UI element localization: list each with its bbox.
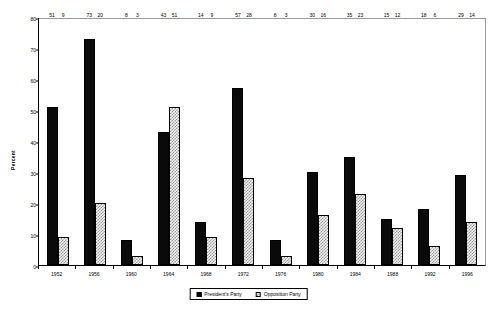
- bar-presidents-party[interactable]: 14: [195, 222, 206, 265]
- x-axis-tick-label: 1984: [337, 271, 374, 277]
- x-axis-tick-mark: [75, 266, 76, 269]
- y-axis-tick-label: 40: [6, 140, 39, 146]
- bar-presidents-party[interactable]: 29: [455, 175, 466, 265]
- x-axis-group: 1968: [187, 266, 224, 282]
- bar-group: 7320: [76, 19, 113, 265]
- bar-group: 3016: [299, 19, 336, 265]
- x-axis: 1952195619601964196819721976198019841988…: [38, 266, 486, 282]
- bar-wrapper: 29: [455, 19, 466, 265]
- bar-opposition-party[interactable]: 14: [466, 222, 477, 265]
- bar-opposition-party[interactable]: 23: [355, 194, 366, 265]
- bar-wrapper: 73: [84, 19, 95, 265]
- x-axis-tick-label: 1988: [374, 271, 411, 277]
- bar-value-label: 51: [172, 12, 178, 18]
- bar-opposition-party[interactable]: 3: [281, 256, 292, 265]
- bar-presidents-party[interactable]: 15: [381, 219, 392, 266]
- bar-wrapper: 51: [47, 19, 58, 265]
- x-axis-group: 1952: [38, 266, 75, 282]
- bar-wrapper: 3: [281, 19, 292, 265]
- bar-value-label: 3: [136, 12, 139, 18]
- bar-group: 519: [39, 19, 76, 265]
- bar-presidents-party[interactable]: 51: [47, 107, 58, 265]
- bar-wrapper: 14: [195, 19, 206, 265]
- bar-value-label: 14: [198, 12, 204, 18]
- bar-group: 5728: [225, 19, 262, 265]
- x-axis-group: 1980: [299, 266, 336, 282]
- x-axis-tick-mark: [262, 266, 263, 269]
- bar-opposition-party[interactable]: 28: [243, 178, 254, 265]
- x-axis-group: 1992: [411, 266, 448, 282]
- bar-opposition-party[interactable]: 16: [318, 215, 329, 265]
- bar-opposition-party[interactable]: 20: [95, 203, 106, 265]
- bar-wrapper: 12: [392, 19, 403, 265]
- bar-presidents-party[interactable]: 18: [418, 209, 429, 265]
- x-axis-tick-mark: [337, 266, 338, 269]
- x-axis-tick-mark: [187, 266, 188, 269]
- bar-wrapper: 28: [243, 19, 254, 265]
- bar-value-label: 8: [125, 12, 128, 18]
- bar-chart: Percent 01020304050607080 51973208343511…: [0, 0, 497, 318]
- bar-opposition-party[interactable]: 9: [206, 237, 217, 265]
- x-axis-group: 1984: [337, 266, 374, 282]
- y-axis-tick-label: 0: [6, 264, 39, 270]
- bar-presidents-party[interactable]: 8: [270, 240, 281, 265]
- plot-area: 01020304050607080 5197320834351149572883…: [38, 18, 486, 266]
- bar-value-label: 6: [433, 12, 436, 18]
- x-axis-group: 1972: [225, 266, 262, 282]
- bar-wrapper: 16: [318, 19, 329, 265]
- bar-presidents-party[interactable]: 57: [232, 88, 243, 265]
- bar-opposition-party[interactable]: 6: [429, 246, 440, 265]
- x-axis-tick-mark: [411, 266, 412, 269]
- bar-value-label: 15: [384, 12, 390, 18]
- x-axis-tick-label: 1964: [150, 271, 187, 277]
- bar-wrapper: 3: [132, 19, 143, 265]
- x-axis-tick-label: 1952: [38, 271, 75, 277]
- bar-value-label: 29: [458, 12, 464, 18]
- y-axis-tick-label: 80: [6, 16, 39, 22]
- x-axis-tick-label: 1968: [187, 271, 224, 277]
- x-axis-group: 1960: [113, 266, 150, 282]
- legend-item-presidents-party: President's Party: [196, 291, 242, 297]
- x-axis-tick-mark: [449, 266, 450, 269]
- bar-presidents-party[interactable]: 43: [158, 132, 169, 265]
- bar-value-label: 9: [210, 12, 213, 18]
- bar-wrapper: 6: [429, 19, 440, 265]
- bar-group: 186: [411, 19, 448, 265]
- chart-legend: President's Party Opposition Party: [189, 288, 308, 300]
- y-axis-tick-label: 60: [6, 78, 39, 84]
- bar-opposition-party[interactable]: 9: [58, 237, 69, 265]
- bar-value-label: 9: [62, 12, 65, 18]
- bar-presidents-party[interactable]: 73: [84, 39, 95, 265]
- x-axis-group: 1976: [262, 266, 299, 282]
- x-axis-tick-label: 1992: [411, 271, 448, 277]
- x-axis-tick-mark: [225, 266, 226, 269]
- bar-value-label: 73: [86, 12, 92, 18]
- bar-opposition-party[interactable]: 51: [169, 107, 180, 265]
- bar-opposition-party[interactable]: 12: [392, 228, 403, 265]
- y-axis-tick-label: 20: [6, 202, 39, 208]
- bar-presidents-party[interactable]: 30: [307, 172, 318, 265]
- bar-wrapper: 57: [232, 19, 243, 265]
- x-axis-tick-label: 1976: [262, 271, 299, 277]
- bar-wrapper: 8: [121, 19, 132, 265]
- bar-value-label: 28: [246, 12, 252, 18]
- bar-wrapper: 35: [344, 19, 355, 265]
- bar-wrapper: 18: [418, 19, 429, 265]
- bar-group: 83: [113, 19, 150, 265]
- y-axis-tick-label: 10: [6, 233, 39, 239]
- bar-opposition-party[interactable]: 3: [132, 256, 143, 265]
- x-axis-tick-label: 1972: [225, 271, 262, 277]
- bar-value-label: 23: [358, 12, 364, 18]
- y-axis-tick-label: 70: [6, 47, 39, 53]
- bar-wrapper: 20: [95, 19, 106, 265]
- bar-wrapper: 15: [381, 19, 392, 265]
- legend-item-opposition-party: Opposition Party: [256, 291, 301, 297]
- bar-presidents-party[interactable]: 35: [344, 157, 355, 266]
- bar-group: 149: [188, 19, 225, 265]
- x-axis-tick-label: 1980: [299, 271, 336, 277]
- bar-presidents-party[interactable]: 8: [121, 240, 132, 265]
- bar-group: 3523: [336, 19, 373, 265]
- legend-label-presidents-party: President's Party: [204, 291, 242, 297]
- x-axis-group: 1956: [75, 266, 112, 282]
- bar-group: 83: [262, 19, 299, 265]
